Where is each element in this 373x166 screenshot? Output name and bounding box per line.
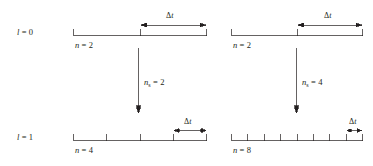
dt-label-l1-left: Δt xyxy=(184,118,192,126)
dt-label-l1-right: Δt xyxy=(349,118,357,126)
dt-arrow-head-right xyxy=(201,129,206,133)
timeline-l1-left xyxy=(74,134,207,141)
dt-arrow-l1-right xyxy=(347,129,362,133)
timeline-l0-left xyxy=(74,29,207,36)
refinement-diagram: l = 0 l = 1 n = 2 n = 2 n = 4 n = 8 Δt Δ… xyxy=(0,0,373,166)
dt-arrow-l1-left xyxy=(174,129,206,133)
refinement-arrow-left xyxy=(136,48,140,113)
dt-arrow-head-right xyxy=(356,23,362,27)
refinement-arrow-head xyxy=(294,106,298,114)
dt-arrow-l0-left xyxy=(141,23,206,27)
refinement-label-left: ns = 2 xyxy=(144,78,165,87)
dt-arrow-l0-right xyxy=(298,23,362,27)
n-label-l1-right: n = 8 xyxy=(233,146,251,155)
refinement-label-right: ns = 4 xyxy=(302,78,323,87)
refinement-label-left-text: ns = 2 xyxy=(144,77,165,87)
level-label-l0: l = 0 xyxy=(17,28,33,37)
dt-arrow-head-left xyxy=(298,23,304,27)
dt-label-l0-left: Δt xyxy=(166,12,174,20)
dt-arrow-head-left xyxy=(141,23,147,27)
dt-arrow-head-left xyxy=(174,129,179,133)
dt-arrow-head-right xyxy=(200,23,206,27)
level-label-l1: l = 1 xyxy=(17,133,33,142)
dt-arrow-head-left xyxy=(347,129,352,133)
n-label-l0-left: n = 2 xyxy=(75,41,93,50)
timeline-l1-right xyxy=(232,134,363,141)
dt-arrow-head-right xyxy=(357,129,362,133)
dt-label-l0-right: Δt xyxy=(324,12,332,20)
timeline-l0-right xyxy=(232,29,363,36)
n-label-l1-left: n = 4 xyxy=(75,146,93,155)
n-label-l0-right: n = 2 xyxy=(233,41,251,50)
refinement-arrow-head xyxy=(136,106,140,114)
refinement-label-right-text: ns = 4 xyxy=(302,77,323,87)
refinement-arrow-right xyxy=(294,48,298,113)
